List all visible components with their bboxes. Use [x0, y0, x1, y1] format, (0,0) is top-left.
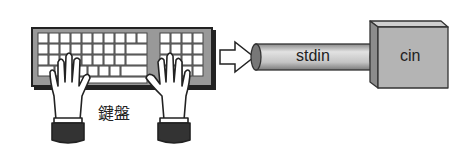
arrow-right-icon	[220, 42, 254, 72]
diagram-canvas	[0, 0, 476, 154]
stdin-label: stdin	[296, 47, 330, 65]
keyboard-label: 鍵盤	[98, 100, 130, 124]
cin-label: cin	[400, 47, 420, 65]
